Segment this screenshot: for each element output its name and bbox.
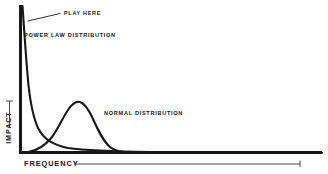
x-axis-label: FREQUENCY xyxy=(24,160,79,167)
annotation-power-law-distribution: POWER LAW DISTRIBUTION xyxy=(24,33,116,39)
annotation-play-here: PLAY HERE xyxy=(64,11,101,16)
distribution-chart: PLAY HERE POWER LAW DISTRIBUTION NORMAL … xyxy=(0,0,328,174)
power-law-curve xyxy=(23,6,323,153)
annotation-normal-distribution: NORMAL DISTRIBUTION xyxy=(104,111,183,117)
chart-canvas xyxy=(0,0,328,174)
play-here-leader-line xyxy=(28,14,60,22)
y-axis-label: IMPACT xyxy=(5,111,12,143)
